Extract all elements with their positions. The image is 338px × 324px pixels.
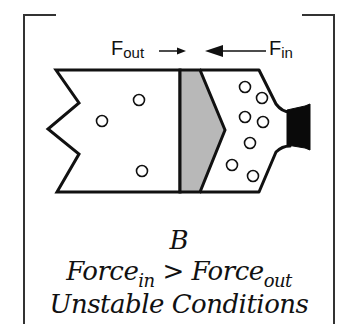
force-inequality: Forcein > Forceout xyxy=(24,258,334,290)
force-out-subscript: out xyxy=(264,270,292,291)
greater-than-operator: > xyxy=(155,256,192,286)
diagram-panel-b: Fout Fin B Forcein > Forceout Unstable C… xyxy=(0,0,338,324)
f-out-arrow-icon xyxy=(159,48,186,55)
f-in-symbol: F xyxy=(269,37,281,59)
f-out-symbol: F xyxy=(111,37,123,59)
force-in-subscript: in xyxy=(138,270,154,291)
force-out-term: Force xyxy=(192,256,264,286)
force-in-term: Force xyxy=(66,256,138,286)
left-chamber xyxy=(48,70,180,192)
condition-status: Unstable Conditions xyxy=(24,291,334,317)
f-out-subscript: out xyxy=(123,44,144,61)
panel-letter: B xyxy=(24,227,334,253)
f-out-label: Fout xyxy=(111,38,144,60)
f-in-subscript: in xyxy=(281,44,293,61)
f-in-arrow-icon xyxy=(205,45,266,57)
nozzle-outlet xyxy=(287,104,310,150)
f-in-label: Fin xyxy=(269,38,293,60)
